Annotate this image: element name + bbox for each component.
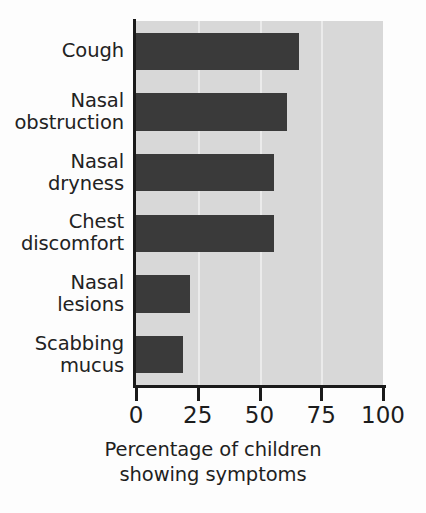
x-axis-title-line-1: Percentage of children: [0, 437, 426, 462]
bar: [136, 93, 287, 130]
tick-mark-100: [382, 388, 385, 401]
gridline-50: [260, 21, 262, 385]
tick-label-25: 25: [183, 402, 212, 428]
category-label: Cough: [0, 40, 124, 62]
gridline-75: [321, 21, 323, 385]
tick-label-0: 0: [129, 402, 144, 428]
x-axis-title: Percentage of children showing symptoms: [0, 437, 426, 487]
tick-label-50: 50: [245, 402, 274, 428]
category-label: Scabbing mucus: [0, 333, 124, 377]
tick-label-100: 100: [361, 402, 405, 428]
gridline-25: [198, 21, 200, 385]
bar: [136, 336, 183, 373]
bar: [136, 33, 299, 70]
bar-chart-figure: CoughNasal obstructionNasal drynessChest…: [0, 0, 426, 513]
category-label: Chest discomfort: [0, 211, 124, 255]
tick-mark-50: [259, 388, 262, 401]
bar: [136, 275, 190, 312]
category-label: Nasal lesions: [0, 272, 124, 316]
tick-label-75: 75: [307, 402, 336, 428]
bar: [136, 154, 274, 191]
tick-mark-25: [197, 388, 200, 401]
category-label: Nasal dryness: [0, 151, 124, 195]
category-axis-labels: CoughNasal obstructionNasal drynessChest…: [0, 21, 130, 385]
tick-mark-0: [135, 388, 138, 401]
tick-mark-75: [320, 388, 323, 401]
x-axis-title-line-2: showing symptoms: [0, 462, 426, 487]
category-label: Nasal obstruction: [0, 90, 124, 134]
bar: [136, 215, 274, 252]
y-axis-spine: [133, 19, 136, 387]
plot-area: [136, 21, 383, 385]
